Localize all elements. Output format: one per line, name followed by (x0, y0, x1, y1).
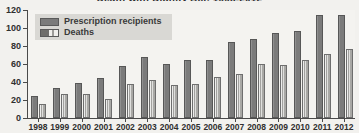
legend-item: Prescription recipients (40, 17, 162, 26)
bar-group (312, 10, 334, 118)
y-tick-label: 20 (11, 96, 21, 105)
bar-prescription-recipients (53, 88, 60, 118)
x-tick-label: 2005 (180, 122, 202, 133)
bar-deaths (83, 94, 90, 118)
x-tick-label: 2012 (333, 122, 355, 133)
chart-legend: Prescription recipientsDeaths (35, 14, 172, 40)
bar-deaths (105, 99, 112, 118)
legend-swatch-icon (40, 29, 59, 37)
bar-prescription-recipients (75, 83, 82, 118)
x-tick-label: 2000 (71, 122, 93, 133)
x-tick-label: 2002 (114, 122, 136, 133)
bar-prescription-recipients (141, 57, 148, 118)
bar-prescription-recipients (31, 96, 38, 118)
bar-prescription-recipients (272, 33, 279, 119)
x-tick-label: 2004 (158, 122, 180, 133)
y-tick-label: 40 (11, 78, 21, 87)
legend-label: Deaths (64, 28, 94, 37)
bar-deaths (324, 54, 331, 118)
bar-prescription-recipients (250, 39, 257, 118)
bar-deaths (39, 104, 46, 118)
bar-deaths (127, 84, 134, 118)
bar-deaths (258, 64, 265, 118)
y-axis: 020406080100120 (0, 10, 27, 119)
legend-swatch-icon (40, 18, 59, 26)
bar-deaths (214, 77, 221, 118)
bar-deaths (192, 84, 199, 118)
bar-group (203, 10, 225, 118)
bar-deaths (61, 94, 68, 118)
chart-title: Death with Dignity Act, 1998-2012 (0, 0, 359, 1)
x-tick-label: 2009 (268, 122, 290, 133)
bar-prescription-recipients (316, 15, 323, 118)
x-tick-label: 2011 (311, 122, 333, 133)
bar-deaths (346, 49, 353, 118)
x-tick-label: 1998 (27, 122, 49, 133)
bar-group (181, 10, 203, 118)
bar-prescription-recipients (119, 66, 126, 118)
y-tick-label: 120 (6, 6, 21, 15)
bar-prescription-recipients (97, 78, 104, 118)
x-tick-label: 2007 (224, 122, 246, 133)
bar-prescription-recipients (294, 31, 301, 118)
bar-prescription-recipients (338, 15, 345, 119)
y-tick-label: 100 (6, 24, 21, 33)
bar-group (334, 10, 356, 118)
bar-group (225, 10, 247, 118)
bar-group (290, 10, 312, 118)
y-tick-label: 60 (11, 60, 21, 69)
bar-deaths (171, 85, 178, 118)
legend-item: Deaths (40, 28, 162, 37)
bar-prescription-recipients (184, 60, 191, 119)
bar-group (247, 10, 269, 118)
x-axis: 1998199920002001200220032004200520062007… (27, 119, 355, 133)
y-tick-label: 0 (16, 114, 21, 123)
legend-label: Prescription recipients (64, 17, 162, 26)
bar-group (269, 10, 291, 118)
bar-chart: Death with Dignity Act, 1998-2012 020406… (0, 0, 359, 133)
x-tick-label: 1999 (49, 122, 71, 133)
x-tick-label: 2003 (136, 122, 158, 133)
bar-deaths (302, 60, 309, 119)
x-tick-label: 2001 (93, 122, 115, 133)
x-tick-label: 2010 (289, 122, 311, 133)
y-tick-label: 80 (11, 42, 21, 51)
x-tick-label: 2006 (202, 122, 224, 133)
bar-deaths (149, 80, 156, 118)
x-tick-label: 2008 (246, 122, 268, 133)
bar-prescription-recipients (163, 64, 170, 118)
bar-prescription-recipients (228, 42, 235, 119)
bar-deaths (236, 74, 243, 118)
bar-prescription-recipients (206, 60, 213, 119)
bar-deaths (280, 65, 287, 118)
